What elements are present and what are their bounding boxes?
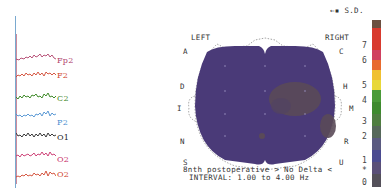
eeg-trace-f2: [16, 68, 56, 80]
channel-label-p2: P2: [57, 118, 68, 127]
colorbar-tick-7: 7: [362, 41, 367, 50]
eeg-trace-p2: [16, 108, 56, 120]
electrode-letter-i: I: [177, 104, 182, 113]
channel-label-o2-a: O2: [57, 155, 69, 164]
eeg-trace-fp2: [16, 51, 56, 63]
colorbar-tick-6: 6: [362, 56, 367, 65]
channel-label-f2: F2: [57, 71, 68, 80]
eeg-trace-o1: [16, 128, 56, 140]
sd-legend-marker: ←▪ S.D.: [330, 6, 364, 15]
colorbar-gradient: [372, 20, 381, 178]
colorbar-tick-3: 3: [362, 117, 367, 126]
electrode-letter-m: M: [349, 104, 354, 113]
channel-label-c2: C2: [57, 94, 69, 103]
colorbar-tick-4: 4: [362, 96, 367, 105]
colorbar-tick-asterisk: *: [362, 166, 367, 175]
eeg-trace-o2-b: [16, 168, 56, 180]
channel-label-o2-b: O2: [57, 170, 69, 179]
caption-interval: INTERVAL: 1.00 to 4.00 Hz: [189, 173, 309, 182]
colorbar-tick-0: 0: [362, 178, 367, 187]
eeg-trace-c2: [16, 90, 56, 102]
colorbar-tick-1: 1: [362, 156, 367, 165]
channel-label-o1: O1: [57, 133, 69, 142]
brain-topography-map: [185, 36, 345, 171]
channel-label-fp2: Fp2: [57, 56, 74, 65]
colorbar-tick-2: 2: [362, 132, 367, 141]
colorbar-tick-5: 5: [362, 81, 367, 90]
eeg-trace-o2-a: [16, 148, 56, 160]
